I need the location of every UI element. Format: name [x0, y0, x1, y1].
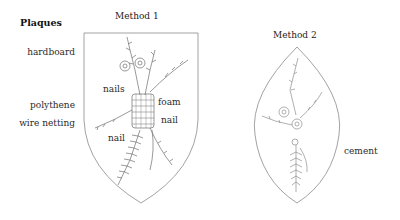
- illustration: [0, 0, 400, 220]
- pointed-oval-plaque-outline: [254, 47, 339, 203]
- flower-arrangement-1: [95, 37, 188, 185]
- foam-block: [132, 94, 154, 128]
